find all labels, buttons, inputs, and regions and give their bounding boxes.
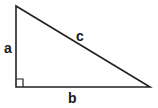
- side-b-label: b: [68, 90, 77, 106]
- side-a-label: a: [4, 40, 12, 56]
- side-c-label: c: [76, 28, 84, 44]
- right-angle-marker: [16, 79, 23, 87]
- triangle-shape: [16, 6, 150, 87]
- right-triangle-diagram: a c b: [0, 0, 158, 108]
